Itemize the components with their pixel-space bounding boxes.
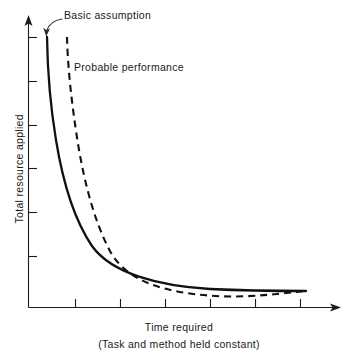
series-basic-assumption [47, 37, 306, 291]
annotation-basic-assumption: Basic assumption [64, 10, 151, 22]
x-axis-label: Time required [0, 322, 358, 334]
basic-assumption-arrowhead [43, 28, 50, 37]
y-axis-label: Total resource applied [14, 103, 26, 235]
annotation-probable-performance: Probable performance [74, 62, 184, 74]
chart-canvas [0, 0, 358, 359]
chart-figure: Basic assumption Probable performance To… [0, 0, 358, 359]
x-axis-sublabel: (Task and method held constant) [0, 339, 358, 351]
